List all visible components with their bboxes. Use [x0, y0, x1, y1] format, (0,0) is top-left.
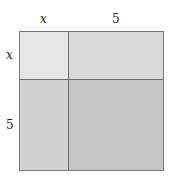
region-5x-bottom [20, 80, 68, 170]
horizontal-divider [20, 79, 163, 80]
side-label-5: 5 [6, 119, 14, 131]
vertical-divider [68, 32, 69, 170]
region-25 [69, 80, 163, 170]
region-5x-top [69, 32, 163, 79]
region-x-squared [20, 32, 68, 79]
top-label-5: 5 [112, 13, 120, 25]
top-label-x: x [40, 13, 47, 25]
side-label-x: x [6, 49, 13, 61]
area-model-square [19, 31, 164, 171]
